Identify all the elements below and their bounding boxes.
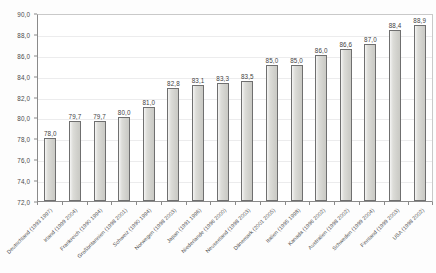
- bar-slot: 83,3: [210, 15, 235, 201]
- bar-value-label: 86,6: [339, 41, 352, 48]
- y-tick-label: 74,0: [17, 178, 30, 185]
- x-tick-mark: [359, 202, 360, 205]
- x-tick-label: Deutschland (1993 1997): [6, 207, 54, 255]
- bar-value-label: 81,0: [142, 99, 155, 106]
- x-tick-mark: [87, 202, 88, 205]
- bar-value-label: 88,4: [389, 22, 402, 29]
- y-tick-label: 78,0: [17, 136, 30, 143]
- bar-value-label: 78,0: [44, 130, 57, 137]
- x-tick-mark: [432, 202, 433, 205]
- bar[interactable]: 86,6: [340, 49, 352, 201]
- x-tick-mark: [161, 202, 162, 205]
- x-tick-mark: [37, 202, 38, 205]
- bar-value-label: 83,5: [241, 73, 254, 80]
- y-tick-label: 80,0: [17, 115, 30, 122]
- bar[interactable]: 88,4: [389, 30, 401, 201]
- bar-value-label: 86,0: [315, 47, 328, 54]
- bar-slot: 88,9: [407, 15, 432, 201]
- bar-slot: 80,0: [112, 15, 137, 201]
- bar-slot: 83,1: [186, 15, 211, 201]
- y-tick-label: 88,0: [17, 31, 30, 38]
- bar-slot: 86,0: [309, 15, 334, 201]
- x-tick-mark: [186, 202, 187, 205]
- bar-slot: 81,0: [137, 15, 162, 201]
- x-tick-mark: [136, 202, 137, 205]
- bar-value-label: 88,9: [413, 17, 426, 24]
- y-tick-label: 90,0: [17, 11, 30, 18]
- x-tick-mark: [210, 202, 211, 205]
- x-tick-mark: [309, 202, 310, 205]
- bar-slot: 83,5: [235, 15, 260, 201]
- bar[interactable]: 83,1: [192, 85, 204, 201]
- bar-slot: 82,8: [161, 15, 186, 201]
- bar-chart: 90,088,086,084,082,080,078,076,074,072,0…: [0, 0, 436, 273]
- bar-slot: 88,4: [383, 15, 408, 201]
- bar-slot: 79,7: [63, 15, 88, 201]
- bar[interactable]: 83,3: [217, 83, 229, 201]
- y-tick-label: 86,0: [17, 52, 30, 59]
- x-label-slot: USA (1998 2002): [408, 206, 433, 273]
- x-axis-labels: Deutschland (1993 1997)Irland (1999 2004…: [37, 206, 433, 273]
- bar-value-label: 82,8: [167, 80, 180, 87]
- bars-layer: 78,079,779,780,081,082,883,183,383,585,0…: [38, 15, 432, 201]
- y-tick-label: 76,0: [17, 157, 30, 164]
- y-tick-label: 84,0: [17, 73, 30, 80]
- x-tick-mark: [285, 202, 286, 205]
- bar[interactable]: 81,0: [143, 107, 155, 201]
- bar-slot: 78,0: [38, 15, 63, 201]
- bar[interactable]: 85,0: [266, 65, 278, 201]
- x-tick-mark: [334, 202, 335, 205]
- bar-value-label: 83,1: [192, 77, 205, 84]
- bar[interactable]: 87,0: [364, 44, 376, 201]
- x-tick-mark: [408, 202, 409, 205]
- y-axis: 90,088,086,084,082,080,078,076,074,072,0: [0, 14, 34, 202]
- bar-slot: 87,0: [358, 15, 383, 201]
- bar[interactable]: 80,0: [118, 117, 130, 201]
- bar[interactable]: 86,0: [315, 55, 327, 201]
- bar-value-label: 79,7: [69, 113, 82, 120]
- x-tick-mark: [260, 202, 261, 205]
- bar-slot: 79,7: [87, 15, 112, 201]
- bar[interactable]: 78,0: [44, 138, 56, 201]
- bar[interactable]: 79,7: [94, 121, 106, 201]
- y-tick-label: 82,0: [17, 94, 30, 101]
- bar[interactable]: 85,0: [291, 65, 303, 201]
- bar-value-label: 87,0: [364, 36, 377, 43]
- bar[interactable]: 83,5: [241, 81, 253, 201]
- bar-value-label: 85,0: [290, 57, 303, 64]
- x-tick-mark: [235, 202, 236, 205]
- bar-value-label: 80,0: [118, 109, 131, 116]
- bar[interactable]: 79,7: [69, 121, 81, 201]
- bar-slot: 86,6: [334, 15, 359, 201]
- x-tick-mark: [384, 202, 385, 205]
- bar[interactable]: 82,8: [167, 88, 179, 201]
- bar-value-label: 83,3: [216, 75, 229, 82]
- bar-value-label: 85,0: [266, 57, 279, 64]
- y-tick-label: 72,0: [17, 199, 30, 206]
- bar-value-label: 79,7: [93, 113, 106, 120]
- bar[interactable]: 88,9: [414, 25, 426, 202]
- plot-area: 78,079,779,780,081,082,883,183,383,585,0…: [37, 14, 433, 202]
- x-tick-mark: [111, 202, 112, 205]
- bar-slot: 85,0: [260, 15, 285, 201]
- x-tick-mark: [62, 202, 63, 205]
- bar-slot: 85,0: [284, 15, 309, 201]
